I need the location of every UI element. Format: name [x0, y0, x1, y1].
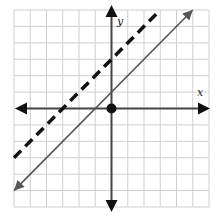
- y-axis-label: y: [116, 15, 124, 28]
- coordinate-plane: y x: [0, 0, 220, 224]
- y-axis-up-arrow-icon: [106, 5, 118, 17]
- x-axis-right-arrow-icon: [198, 103, 210, 115]
- origin-point: [107, 104, 117, 114]
- y-axis-down-arrow-icon: [106, 200, 118, 212]
- lines: [14, 10, 193, 191]
- x-axis-label: x: [197, 86, 204, 99]
- x-axis-left-arrow-icon: [15, 103, 27, 115]
- solid-line: [14, 10, 193, 191]
- dashed-line: [14, 10, 160, 158]
